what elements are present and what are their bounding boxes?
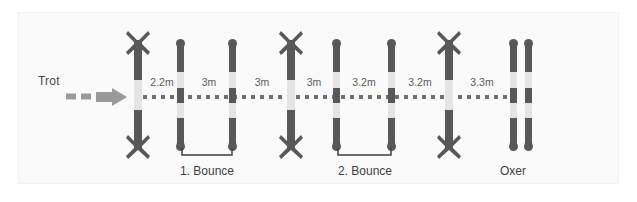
- cross-rail-3-x-top-icon: [436, 30, 462, 56]
- bounce-1-bracket: [181, 148, 233, 157]
- bounce-2-bracket: [337, 148, 392, 157]
- oxer-pole-back-segment-middle: [525, 88, 532, 103]
- bounce-2-pole-b-cap-top: [387, 39, 396, 48]
- obstacle-cross-rail-2: [278, 40, 304, 150]
- approach-track-line: [134, 95, 520, 99]
- trot-direction-arrow: [66, 88, 128, 106]
- cross-rail-1-x-bottom-icon: [125, 134, 151, 160]
- oxer-pole-back-cap-top: [524, 39, 533, 48]
- caption-bounce-1: 1. Bounce: [157, 164, 257, 178]
- bounce-2-pole-a: [332, 42, 341, 148]
- bounce-1-pole-a-cap-top: [176, 39, 185, 48]
- bounce-2-pole-a-cap-top: [332, 39, 341, 48]
- distance-label-5: 3.2m: [342, 76, 386, 88]
- distance-label-4: 3m: [292, 76, 336, 88]
- distance-label-7: 3.3m: [460, 76, 504, 88]
- oxer-pole-back: [524, 42, 533, 148]
- cross-rail-1-x-top-icon: [125, 30, 151, 56]
- bounce-1-pole-a: [176, 42, 185, 148]
- oxer-pole-front: [509, 42, 518, 148]
- obstacle-cross-rail-1: [125, 40, 151, 150]
- bounce-2-pole-a-segment-middle: [333, 88, 340, 103]
- caption-bounce-2: 2. Bounce: [315, 164, 415, 178]
- trot-label: Trot: [38, 74, 60, 88]
- distance-label-6: 3.2m: [398, 76, 442, 88]
- distance-label-1: 2.2m: [140, 76, 184, 88]
- cross-rail-2-x-top-icon: [278, 30, 304, 56]
- diagram-stage: Trot: [0, 0, 637, 202]
- bounce-1-pole-b-cap-top: [228, 39, 237, 48]
- distance-label-2: 3m: [187, 76, 231, 88]
- obstacle-cross-rail-3: [436, 40, 462, 150]
- bounce-2-pole-b: [387, 42, 396, 148]
- bounce-1-pole-b: [228, 42, 237, 148]
- oxer-pole-back-cap-bottom: [524, 142, 533, 151]
- caption-oxer: Oxer: [477, 164, 549, 178]
- distance-label-3: 3m: [240, 76, 284, 88]
- bounce-1-pole-b-segment-middle: [229, 88, 236, 103]
- oxer-pole-front-cap-top: [509, 39, 518, 48]
- cross-rail-2-x-bottom-icon: [278, 134, 304, 160]
- bounce-1-pole-a-segment-middle: [177, 88, 184, 103]
- oxer-pole-front-segment-middle: [510, 88, 517, 103]
- bounce-2-pole-b-segment-middle: [388, 88, 395, 103]
- oxer-pole-front-cap-bottom: [509, 142, 518, 151]
- cross-rail-3-x-bottom-icon: [436, 134, 462, 160]
- jump-grid-diagram: Trot: [0, 0, 637, 202]
